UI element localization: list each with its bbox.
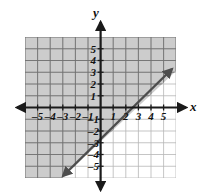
x-tick-label: –2 [69, 110, 82, 122]
y-tick-label: 5 [91, 43, 97, 55]
x-tick-label: 1 [110, 110, 116, 122]
y-tick-label: –3 [87, 137, 100, 149]
y-axis-label: y [93, 6, 99, 19]
x-tick-label: 4 [147, 110, 154, 122]
y-tick-label: –1 [87, 113, 99, 125]
x-tick-label: –5 [31, 110, 44, 122]
x-axis-label: x [190, 100, 197, 113]
y-tick-label: 1 [91, 90, 97, 102]
y-tick-label: 4 [90, 54, 97, 66]
y-tick-label: –2 [87, 125, 100, 137]
coordinate-plane-svg: –5 –4 –3 –2 –1 1 2 3 4 5 5 4 3 2 1 –1 –2… [0, 0, 204, 195]
y-tick-label: –5 [87, 160, 100, 172]
x-tick-label: –3 [56, 110, 69, 122]
x-tick-label: 5 [161, 110, 167, 122]
y-tick-label: 2 [90, 78, 97, 90]
y-tick-label: –4 [87, 148, 100, 160]
graph-figure: –5 –4 –3 –2 –1 1 2 3 4 5 5 4 3 2 1 –1 –2… [0, 0, 204, 195]
x-tick-label: –4 [44, 110, 57, 122]
x-tick-label: 3 [135, 110, 142, 122]
x-tick-label: 2 [122, 110, 129, 122]
y-tick-label: 3 [90, 66, 97, 78]
